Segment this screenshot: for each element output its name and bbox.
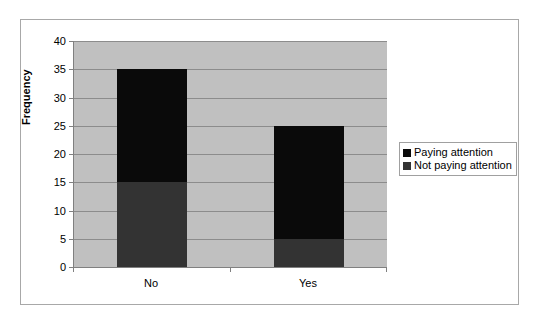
bar-segment [117,182,187,267]
x-axis-tick-label: Yes [299,277,317,289]
y-axis-tick-label: 0 [40,262,66,273]
y-axis-tick-label: 10 [40,205,66,216]
legend-swatch-icon [403,162,411,170]
x-axis-tick-mark [386,268,387,272]
y-axis-tick-label: 40 [40,36,66,47]
legend-item: Paying attention [403,146,512,159]
plot-area [73,41,387,268]
legend-item: Not paying attention [403,159,512,172]
legend-item-label: Not paying attention [414,160,512,171]
y-axis-title: Frequency [20,69,32,125]
bar-stack [274,41,344,267]
bar-stack [117,41,187,267]
y-axis-tick-label: 35 [40,64,66,75]
y-axis-tick-label: 25 [40,120,66,131]
chart-legend: Paying attentionNot paying attention [399,142,517,176]
bar-segment [274,126,344,239]
x-axis-tick-mark [73,268,74,272]
y-axis-tick-label: 20 [40,149,66,160]
legend-swatch-icon [403,149,411,157]
y-axis-tick-label: 30 [40,92,66,103]
chart-container: Frequency 0510152025303540 NoYes Paying … [20,19,519,305]
bar-segment [274,239,344,267]
legend-item-label: Paying attention [414,147,493,158]
y-axis-tick-label: 5 [40,233,66,244]
x-axis-tick-label: No [144,277,158,289]
bar-segment [117,69,187,182]
x-axis-tick-mark [230,268,231,272]
y-axis-tick-label: 15 [40,177,66,188]
